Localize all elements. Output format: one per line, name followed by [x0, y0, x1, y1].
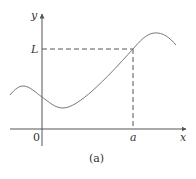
L-label: L — [30, 43, 38, 56]
x-axis-label: x — [180, 131, 187, 144]
origin-label: 0 — [33, 131, 40, 144]
y-axis-label: y — [30, 9, 38, 22]
a-label: a — [130, 131, 137, 144]
limit-diagram: y L 0 a x (a) — [0, 0, 196, 179]
figure-caption: (a) — [89, 152, 104, 165]
